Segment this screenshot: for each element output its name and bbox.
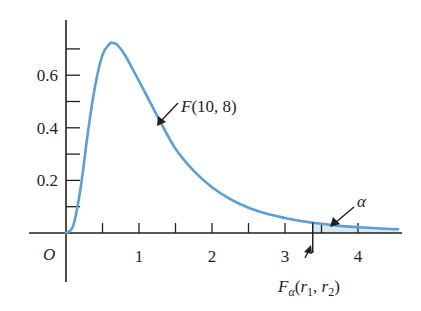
x-tick-labels: 1234 (135, 247, 363, 266)
x-tick-label: 4 (354, 247, 363, 266)
curve-label: F(10, 8) (180, 97, 237, 116)
x-tick-label: 3 (281, 247, 290, 266)
x-tick-label: 2 (208, 247, 217, 266)
y-tick-label: 0.2 (37, 171, 58, 190)
origin-label: O (43, 245, 55, 264)
alpha-annotation: α (330, 192, 367, 227)
y-tick-labels: 0.20.40.6 (37, 66, 59, 190)
f-distribution-chart: 1234 0.20.40.6 O F(10, 8) α Fα(r1, r2) (0, 0, 421, 311)
x-tick-label: 1 (135, 247, 144, 266)
alpha-annotation-arrow (335, 207, 354, 223)
alpha-label: α (357, 192, 367, 211)
y-ticks (66, 49, 80, 207)
y-tick-label: 0.4 (37, 119, 59, 138)
curve-annotation: F(10, 8) (157, 97, 237, 126)
curve-annotation-arrow (161, 103, 178, 121)
f-10-8-density-curve (66, 42, 398, 233)
critical-value-label: Fα(r1, r2) (277, 277, 340, 299)
y-tick-label: 0.6 (37, 66, 58, 85)
arrowhead-icon (304, 245, 312, 254)
